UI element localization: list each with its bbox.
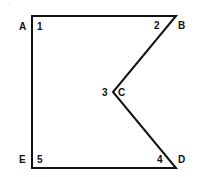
vertex-label-e: E: [19, 154, 26, 165]
vertex-label-d: D: [178, 154, 185, 165]
stray-mark: [9, 3, 10, 4]
vertex-label-c: C: [118, 87, 125, 98]
angle-number-5: 5: [37, 154, 43, 165]
vertex-label-b: B: [178, 20, 185, 31]
angle-number-1: 1: [37, 21, 43, 32]
pentagon-diagram: A 1 2 B 3 C 4 D E 5: [0, 0, 202, 177]
angle-number-3: 3: [102, 87, 108, 98]
vertex-label-a: A: [19, 21, 26, 32]
angle-number-4: 4: [157, 154, 163, 165]
angle-number-2: 2: [154, 20, 160, 31]
